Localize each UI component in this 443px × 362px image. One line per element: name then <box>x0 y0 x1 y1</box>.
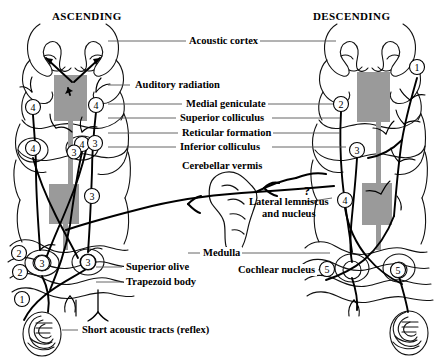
svg-text:4: 4 <box>80 139 85 150</box>
svg-text:5: 5 <box>325 264 330 275</box>
label-lateral-lemniscus-line2: and nucleus <box>249 208 329 220</box>
label-inferior-colliculus: Inferior colliculus <box>178 141 262 153</box>
svg-text:2: 2 <box>18 267 23 278</box>
svg-text:5: 5 <box>396 265 401 276</box>
label-lateral-lemniscus: Lateral lemniscus and nucleus <box>247 196 331 220</box>
svg-text:3: 3 <box>40 258 45 269</box>
label-medulla: Medulla <box>201 247 242 259</box>
svg-text:4: 4 <box>343 195 348 206</box>
right-lower-relay-block <box>362 183 392 225</box>
label-trapezoid-body: Trapezoid body <box>124 276 198 288</box>
svg-text:4: 4 <box>94 100 99 111</box>
svg-text:3: 3 <box>86 257 91 268</box>
header-ascending: ASCENDING <box>52 10 122 22</box>
label-medial-geniculate: Medial geniculate <box>184 98 268 110</box>
svg-text:1: 1 <box>20 294 25 305</box>
svg-text:4: 4 <box>31 143 36 154</box>
anatomy-illustration: 44 44 33 3 23 23 1 1 2 3 4 <box>0 0 443 362</box>
right-upper-relay-block <box>357 72 390 122</box>
svg-text:2: 2 <box>17 248 22 259</box>
svg-text:4: 4 <box>31 102 36 113</box>
figure-canvas: 44 44 33 3 23 23 1 1 2 3 4 <box>0 0 443 362</box>
svg-text:3: 3 <box>72 147 77 158</box>
svg-text:3: 3 <box>355 145 360 156</box>
label-superior-colliculus: Superior colliculus <box>178 112 266 124</box>
svg-text:3: 3 <box>93 138 98 149</box>
label-reticular-formation: Reticular formation <box>180 127 273 139</box>
header-descending: DESCENDING <box>313 10 390 22</box>
label-cerebellar-vermis: Cerebellar vermis <box>180 160 264 172</box>
svg-text:1: 1 <box>415 62 420 73</box>
label-acoustic-cortex: Acoustic cortex <box>187 35 260 47</box>
svg-text:2: 2 <box>339 99 344 110</box>
svg-text:3: 3 <box>90 191 95 202</box>
label-cochlear-nucleus: Cochlear nucleus <box>236 264 317 276</box>
label-short-acoustic-tracts: Short acoustic tracts (reflex) <box>80 324 211 336</box>
label-auditory-radiation: Auditory radiation <box>133 79 222 91</box>
label-lateral-lemniscus-line1: Lateral lemniscus <box>249 196 329 208</box>
label-superior-olive: Superior olive <box>124 261 191 273</box>
